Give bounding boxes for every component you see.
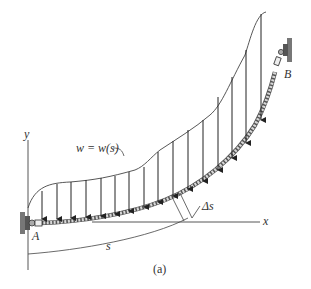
label-x-axis: x xyxy=(263,215,268,227)
label-arc-length: s xyxy=(106,240,111,252)
support-b xyxy=(274,38,292,66)
label-point-a: A xyxy=(32,230,39,242)
cable-diagram xyxy=(0,0,311,289)
label-y-axis: y xyxy=(24,128,29,140)
label-delta-s: Δs xyxy=(202,200,214,212)
load-curve xyxy=(28,12,266,208)
label-load: w = w(s) xyxy=(76,142,119,154)
figure-caption: (a) xyxy=(153,263,166,275)
load-arrows xyxy=(42,14,261,219)
label-point-b: B xyxy=(284,68,291,80)
